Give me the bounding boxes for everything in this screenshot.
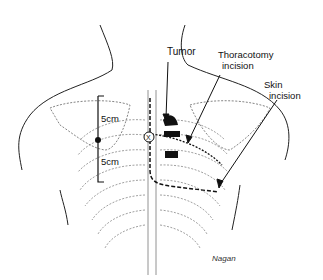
label-skin-1: Skin xyxy=(264,80,282,90)
artist-signature: Nagan xyxy=(212,254,236,264)
label-thoracotomy-1: Thoracotomy xyxy=(218,50,273,60)
anatomy-illustration xyxy=(0,0,323,280)
label-5cm-lower: 5cm xyxy=(101,157,119,167)
midpoint-dot xyxy=(95,137,101,143)
midline-incision xyxy=(150,98,218,192)
label-tumor: Tumor xyxy=(167,47,196,57)
scapulae xyxy=(50,101,270,150)
label-5cm-upper: 5cm xyxy=(101,114,119,124)
leader-lines xyxy=(163,62,277,188)
spine xyxy=(148,90,156,275)
label-thoracotomy-2: incision xyxy=(222,61,254,71)
label-skin-2: incision xyxy=(269,91,301,101)
marker-x: X xyxy=(146,133,151,143)
tumor-mass xyxy=(163,115,180,158)
